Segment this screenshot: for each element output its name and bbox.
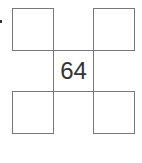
square-top-right [93, 8, 135, 51]
square-bottom-left [12, 91, 54, 134]
square-center-value: 64 [54, 51, 93, 91]
marker-dot [0, 20, 2, 23]
square-bottom-right-value [94, 92, 134, 133]
square-top-left-value [13, 9, 53, 50]
square-bottom-right [93, 91, 135, 134]
square-top-right-value [94, 9, 134, 50]
square-center: 64 [53, 50, 94, 92]
square-top-left [12, 8, 54, 51]
square-bottom-left-value [13, 92, 53, 133]
